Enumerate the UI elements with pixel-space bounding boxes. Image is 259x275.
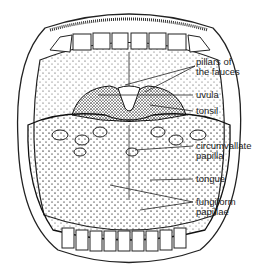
mouth-diagram [0, 0, 259, 275]
label-line: papillae [196, 207, 236, 217]
label-tonsil: tonsil [196, 106, 218, 116]
label-line: papilla [196, 151, 251, 161]
lower-teeth [62, 228, 186, 251]
label-circumvallate-papilla: circumvallate papilla [196, 141, 251, 161]
label-uvula: uvula [196, 90, 219, 100]
label-fungiform-papillae: fungiform papillae [196, 197, 236, 217]
label-line: the fauces [196, 67, 240, 77]
label-tongue: tongue [196, 174, 225, 184]
label-pillars-of-the-fauces: pillars of the fauces [196, 57, 240, 77]
